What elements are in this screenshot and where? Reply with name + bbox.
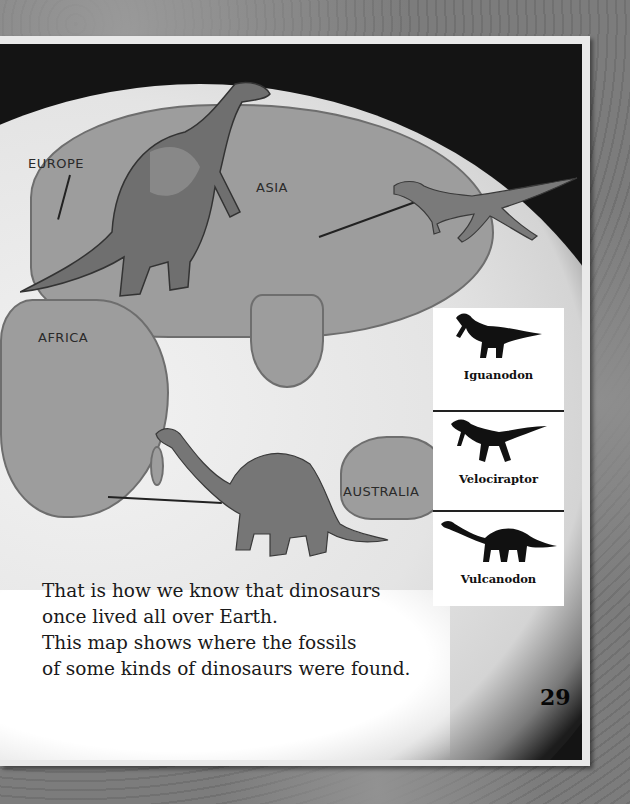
body-text-line: That is how we know that dinosaurs [42,578,410,604]
velociraptor-illustration [392,176,582,256]
india-landmass [250,294,324,388]
label-africa: AFRICA [38,330,88,345]
body-text: That is how we know that dinosaurs once … [42,578,410,682]
legend-item-iguanodon: Iguanodon [433,312,564,410]
page-number: 29 [540,684,571,710]
velociraptor-silhouette-icon [449,416,549,466]
body-text-line: This map shows where the fossils [42,630,410,656]
vulcanodon-silhouette-icon [439,516,559,566]
legend-item-velociraptor: Velociraptor [433,410,564,510]
iguanodon-illustration [20,72,280,302]
legend-label-iguanodon: Iguanodon [433,368,564,382]
legend-label-velociraptor: Velociraptor [433,472,564,486]
iguanodon-silhouette-icon [454,312,544,362]
body-text-line: once lived all over Earth. [42,604,410,630]
legend-item-vulcanodon: Vulcanodon [433,510,564,610]
vulcanodon-illustration [150,424,390,564]
body-text-line: of some kinds of dinosaurs were found. [42,656,410,682]
legend-label-vulcanodon: Vulcanodon [433,572,564,586]
dinosaur-legend: Iguanodon Velociraptor Vulcanodon [433,308,564,606]
